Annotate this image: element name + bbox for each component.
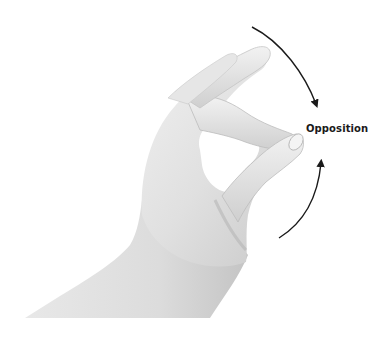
lower-arrow (279, 163, 321, 238)
hand-illustration (0, 0, 380, 341)
opposition-label: Opposition (306, 123, 368, 134)
opposition-illustration: Opposition (0, 0, 380, 341)
